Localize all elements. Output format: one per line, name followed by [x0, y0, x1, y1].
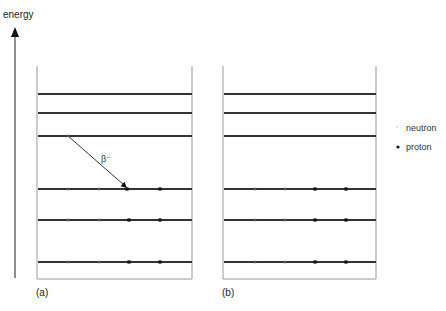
panel-a: β⁻(a): [36, 66, 192, 298]
proton-marker: [344, 218, 347, 221]
neutron-marker: [98, 261, 100, 263]
neutron-marker: [284, 219, 286, 221]
proton-marker: [344, 260, 347, 263]
proton-marker: [344, 187, 347, 190]
legend-proton-marker-icon: [396, 145, 399, 148]
potential-well-frame: [37, 66, 192, 279]
proton-marker: [158, 218, 161, 221]
proton-marker: [127, 260, 130, 263]
neutron-marker: [67, 261, 69, 263]
panel-b: (b): [222, 66, 376, 298]
legend-proton-label: proton: [406, 142, 432, 152]
neutron-marker: [67, 188, 69, 190]
panels: β⁻(a)(b): [36, 66, 376, 298]
neutron-marker: [254, 261, 256, 263]
energy-axis-arrowhead-icon: [11, 27, 19, 37]
proton-marker: [313, 218, 316, 221]
beta-minus-label: β⁻: [101, 154, 111, 164]
neutron-marker: [254, 188, 256, 190]
proton-marker: [158, 187, 161, 190]
panel-label-a: (a): [36, 287, 48, 298]
neutron-marker: [254, 219, 256, 221]
neutron-marker: [284, 188, 286, 190]
proton-marker: [127, 218, 130, 221]
potential-well-frame: [223, 66, 376, 279]
nuclear-energy-level-diagram: energy β⁻(a)(b) neutron proton: [0, 0, 446, 311]
neutron-marker: [98, 219, 100, 221]
panel-label-b: (b): [222, 287, 234, 298]
proton-marker: [313, 260, 316, 263]
proton-marker: [125, 187, 128, 190]
legend: neutron proton: [396, 123, 436, 152]
neutron-marker: [67, 219, 69, 221]
neutron-marker: [98, 188, 100, 190]
energy-axis-label: energy: [3, 9, 34, 20]
legend-neutron-label: neutron: [406, 123, 437, 133]
neutron-marker: [67, 135, 69, 137]
neutron-marker: [284, 261, 286, 263]
legend-neutron-marker-icon: [396, 126, 398, 128]
beta-decay-arrow: [68, 136, 124, 185]
proton-marker: [158, 260, 161, 263]
energy-axis: energy: [3, 9, 34, 278]
proton-marker: [313, 187, 316, 190]
